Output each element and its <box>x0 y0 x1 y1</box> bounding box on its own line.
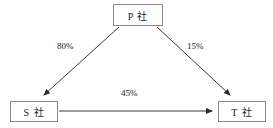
node-box-p: P 社 <box>113 4 163 26</box>
node-label-p: P 社 <box>128 8 149 23</box>
node-box-t: T 社 <box>218 101 266 122</box>
diagram-canvas: P 社 S 社 T 社 80% 15% 45% <box>0 0 273 128</box>
node-label-s: S 社 <box>23 104 44 119</box>
node-label-t: T 社 <box>231 104 252 119</box>
edge-label-p-to-s: 80% <box>56 41 75 52</box>
node-box-s: S 社 <box>10 101 58 122</box>
edge-label-p-to-t: 15% <box>186 41 205 52</box>
edge-p-to-t <box>157 27 230 95</box>
edge-label-s-to-t: 45% <box>120 88 139 99</box>
edge-p-to-s <box>44 27 119 95</box>
